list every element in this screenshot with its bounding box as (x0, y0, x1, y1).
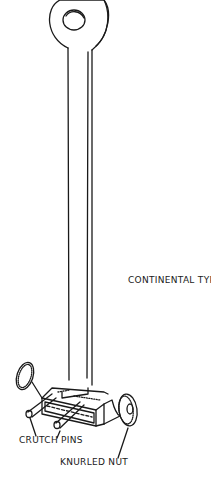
label-continental-type: CONTINENTAL TYPE (128, 275, 211, 285)
left-knurled-knob (13, 360, 42, 398)
label-knurled-nut: KNURLED NUT (60, 457, 128, 467)
eye-ring (50, 0, 109, 50)
right-knurled-nut (104, 393, 139, 427)
crutch-pins (26, 394, 84, 429)
label-crutch-pins: CRUTCH PINS (19, 435, 83, 445)
shaft (68, 48, 92, 385)
wrench-illustration (0, 0, 211, 478)
